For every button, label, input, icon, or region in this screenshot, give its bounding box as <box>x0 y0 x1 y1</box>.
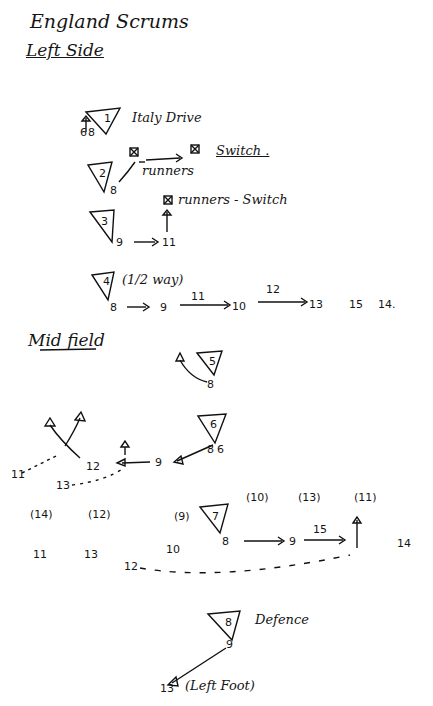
play-2-move-label: runners <box>142 163 194 178</box>
play-6-player-6: 6 <box>217 443 224 456</box>
play-7-bracket-11: (11) <box>354 491 377 504</box>
play-7-number: 7 <box>212 510 219 523</box>
play-4-extra-14: 14. <box>378 298 396 311</box>
play-6-loop-13: 13 <box>56 479 70 492</box>
play-4-seq-10: 10 <box>232 300 246 313</box>
play-7-seq-9: 9 <box>289 535 296 548</box>
section-heading-midfield: Mid field <box>28 330 105 350</box>
play-7-row-13: 13 <box>84 548 98 561</box>
play-7-bracket-10: (10) <box>246 491 269 504</box>
play-8-target-note: (Left Foot) <box>185 678 255 693</box>
play-6-loop-11: 11 <box>11 468 25 481</box>
play-2-player: 8 <box>110 184 117 197</box>
play-1-player-8: 8 <box>88 126 95 139</box>
play-1-player-6: 6 <box>80 126 87 139</box>
play-3-pass-from: 9 <box>116 236 123 249</box>
play-7-seq-8: 8 <box>222 535 229 548</box>
play-3-result: runners - Switch <box>178 192 288 207</box>
play-4-pass-label-12: 12 <box>266 283 280 296</box>
play-7-loop-12: 12 <box>124 560 138 573</box>
play-7-bracket-12: (12) <box>88 508 111 521</box>
play-2-result: Switch . <box>216 143 269 158</box>
play-6-number: 6 <box>210 418 217 431</box>
play-5-number: 5 <box>209 355 216 368</box>
play-8-target: 13 <box>160 682 174 695</box>
play-4-note: (1/2 way) <box>122 272 183 287</box>
play-5-player: 8 <box>207 378 214 391</box>
play-8-player: 9 <box>226 638 233 651</box>
play-4-number: 4 <box>103 275 110 288</box>
play-7-pass-label: 15 <box>313 523 327 536</box>
play-2-number: 2 <box>99 167 106 180</box>
play-8-number: 8 <box>225 616 232 629</box>
scrum-triangle-8 <box>208 611 240 640</box>
diagram-strokes <box>0 0 433 706</box>
play-3-pass-to: 11 <box>162 236 176 249</box>
play-1-note: Italy Drive <box>132 110 202 125</box>
play-7-bracket-14: (14) <box>30 508 53 521</box>
play-4-seq-8: 8 <box>110 301 117 314</box>
play-6-player-8: 8 <box>207 443 214 456</box>
play-4-pass-label-11: 11 <box>191 290 205 303</box>
play-6-seq-9: 9 <box>155 456 162 469</box>
play-4-seq-9: 9 <box>160 301 167 314</box>
play-7-row-11: 11 <box>33 548 47 561</box>
play-1-number: 1 <box>104 112 111 125</box>
play-7-row-10: 10 <box>166 543 180 556</box>
play-6-seq-12: 12 <box>86 460 100 473</box>
play-7-bracket-13: (13) <box>298 491 321 504</box>
play-3-number: 3 <box>101 215 108 228</box>
play-7-bracket-9: (9) <box>174 510 190 523</box>
play-8-note: Defence <box>255 612 309 627</box>
play-4-extra-15: 15 <box>349 298 363 311</box>
play-4-seq-13: 13 <box>309 298 323 311</box>
play-7-row-14: 14 <box>397 537 411 550</box>
